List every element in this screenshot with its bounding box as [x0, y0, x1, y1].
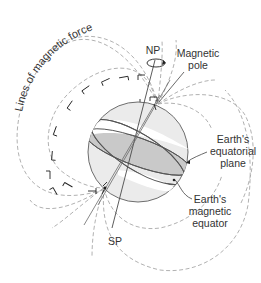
svg-text:magnetic: magnetic: [189, 205, 232, 217]
field-direction-arrow-icon: [46, 171, 50, 179]
magnetic-pole-leader: [159, 72, 184, 102]
lines-of-force-label: Lines of magnetic force: [12, 20, 94, 112]
svg-text:pole: pole: [188, 59, 208, 71]
field-direction-arrow-icon: [63, 183, 73, 191]
field-direction-arrow-icon: [67, 101, 75, 111]
magnetic-equator-label: Earth's magnetic equator: [189, 193, 232, 229]
svg-text:Earth's: Earth's: [217, 133, 249, 145]
equatorial-plane-label: Earth's equatorial plane: [210, 133, 256, 169]
field-direction-arrow-icon: [50, 188, 57, 197]
field-direction-arrow-icon: [119, 76, 129, 82]
earth-globe: [81, 102, 196, 202]
magnetic-equator-leader: [175, 180, 192, 199]
svg-text:Earth's: Earth's: [194, 193, 226, 205]
rotation-arrow-icon: [147, 59, 166, 67]
magnetic-field-diagram: Lines of magnetic force: [0, 0, 261, 283]
south-pole-label: SP: [108, 235, 122, 247]
svg-text:equatorial: equatorial: [210, 145, 256, 157]
field-direction-arrow-icon: [101, 78, 111, 85]
magnetic-pole-label: Magnetic pole: [177, 47, 220, 71]
svg-text:Magnetic: Magnetic: [177, 47, 220, 59]
field-direction-arrow-icon: [52, 151, 57, 160]
north-pole-label: NP: [146, 44, 161, 56]
field-direction-arrow-icon: [53, 126, 60, 136]
svg-text:plane: plane: [220, 157, 246, 169]
field-line-up-2: [158, 40, 176, 104]
svg-text:equator: equator: [192, 217, 228, 229]
field-line-outermost: [50, 36, 158, 104]
field-direction-arrow-icon: [82, 86, 92, 94]
